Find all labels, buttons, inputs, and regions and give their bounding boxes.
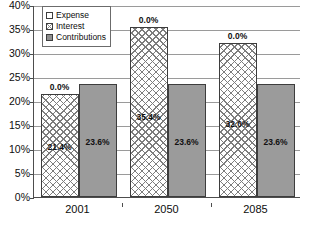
- x-axis-tick-label: 2050: [122, 203, 211, 223]
- bar-interest-2001: 21.4%: [41, 94, 79, 197]
- y-axis-tick-label: 5%: [0, 168, 30, 178]
- legend-item-contributions[interactable]: Contributions: [46, 32, 107, 42]
- y-axis-tick-label: 35%: [0, 24, 30, 34]
- legend-label: Contributions: [56, 33, 106, 42]
- x-axis-tick-label: 2085: [211, 203, 300, 223]
- chart-legend: ExpenseInterestContributions: [42, 6, 111, 47]
- bar-value-label-expense: 0.0%: [219, 31, 257, 41]
- bar-group-2050: 35.4%23.6%0.0%: [123, 6, 212, 197]
- bar-interest-2085: 32.0%: [219, 43, 257, 197]
- bar-contributions-2085: 23.6%: [257, 84, 295, 197]
- legend-swatch-icon: [46, 34, 53, 41]
- y-axis-tick-label: 10%: [0, 144, 30, 154]
- y-axis-tick-label: 40%: [0, 0, 30, 10]
- legend-swatch-icon: [46, 12, 53, 19]
- bar-value-label: 35.4%: [131, 112, 167, 122]
- y-axis-tick-label: 0%: [0, 192, 30, 202]
- bar-value-label: 32.0%: [220, 119, 256, 129]
- bar-contributions-2050: 23.6%: [168, 84, 206, 197]
- legend-item-interest[interactable]: Interest: [46, 21, 107, 31]
- y-axis-tick-label: 25%: [0, 72, 30, 82]
- legend-label: Expense: [56, 11, 89, 20]
- x-axis-tick: [211, 203, 212, 207]
- y-axis-labels: 0%5%10%15%20%25%30%35%40%: [0, 6, 30, 198]
- bar-value-label-expense: 0.0%: [41, 82, 79, 92]
- bar-interest-2050: 35.4%: [130, 27, 168, 197]
- bar-value-label: 23.6%: [169, 137, 205, 147]
- legend-label: Interest: [56, 22, 84, 31]
- bar-value-label: 21.4%: [42, 142, 78, 152]
- x-axis-tick-label: 2001: [33, 203, 122, 223]
- y-axis-tick-label: 15%: [0, 120, 30, 130]
- bar-group-2085: 32.0%23.6%0.0%: [212, 6, 301, 197]
- bar-value-label-expense: 0.0%: [130, 15, 168, 25]
- bar-value-label: 23.6%: [80, 137, 116, 147]
- x-axis-tick: [122, 203, 123, 207]
- x-axis-labels: 200120502085: [33, 203, 300, 223]
- bar-contributions-2001: 23.6%: [79, 84, 117, 197]
- legend-item-expense[interactable]: Expense: [46, 10, 107, 20]
- y-axis-tick-label: 30%: [0, 48, 30, 58]
- bar-value-label: 23.6%: [258, 137, 294, 147]
- bar-chart: 0%5%10%15%20%25%30%35%40% 21.4%23.6%0.0%…: [0, 0, 310, 227]
- y-axis-tick: [30, 198, 34, 199]
- legend-swatch-icon: [46, 23, 53, 30]
- y-axis-tick-label: 20%: [0, 96, 30, 106]
